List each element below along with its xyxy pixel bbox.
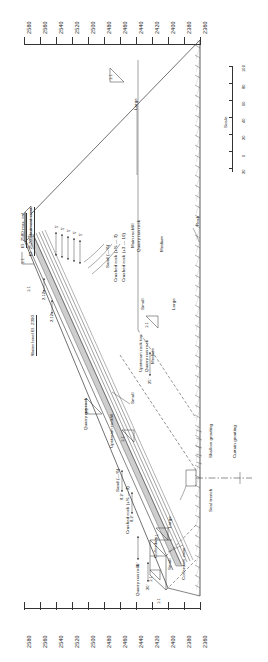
label-upstream-rockfill: Upstream rockfill — [110, 414, 114, 448]
label-max-rwl: El. 2580 max. rwl — [21, 213, 27, 248]
scale-label: Scale — [224, 117, 228, 128]
label-large-coffer: Large — [168, 516, 172, 528]
label-crushed-rock-2: Crushed rock (+3 — 10) — [122, 233, 126, 282]
scale-tick-80: 80 — [242, 84, 246, 89]
scale-tick-60: 60 — [242, 101, 246, 106]
label-large-top: Large — [134, 98, 138, 110]
dim-25: 25' — [148, 378, 152, 384]
dim-5c: 5' — [67, 229, 71, 232]
label-medium-lower: Medium — [151, 348, 155, 364]
scale-tick-0: 0 — [242, 155, 246, 157]
dim-82b: 8.2' — [130, 515, 134, 522]
label-seal-trench: Seal trench — [209, 489, 213, 512]
scale-tick-20: 20 — [242, 135, 246, 140]
dim-5b: 5' — [61, 227, 65, 230]
slope-toe: 1:1 — [121, 436, 125, 442]
dim-30: 30' — [136, 562, 140, 568]
dim-5e: 5' — [79, 233, 83, 236]
dim-212b: 2.12' — [50, 313, 54, 322]
label-crushed-rock-1: Crushed rock (+⅜ — 3) — [114, 234, 118, 282]
slope-mid: 1:1 — [145, 322, 149, 328]
label-rock: Rock — [196, 216, 200, 226]
dim-212a: 2.12' — [42, 291, 46, 300]
dim-5a: 5' — [55, 225, 59, 228]
slope-core: 2:1 — [85, 408, 89, 414]
label-quarry-run-rock-3: Quarry run rock — [84, 398, 88, 430]
label-medium-upper: Medium — [160, 236, 164, 252]
slope-base: 1:1 — [157, 598, 161, 604]
label-curtain-grouting: Curtain grouting — [233, 425, 237, 458]
label-small-lower: Small — [131, 393, 135, 404]
scale-tick-100: 100 — [242, 65, 246, 72]
drawing-canvas: 2580 2560 2540 2520 2500 2480 2460 2440 … — [0, 0, 268, 662]
label-main-rockfill: Main rockfill — [131, 224, 135, 248]
label-small-mid: Small — [141, 299, 145, 310]
scale-tick-40: 40 — [242, 118, 246, 123]
label-large-mid: Large — [172, 298, 176, 310]
slope-coffer-b: 1:1 — [149, 576, 153, 582]
label-small-coffer: Small — [168, 559, 172, 570]
scale-tick-20b: 20 — [242, 169, 246, 174]
dim-20: 20' — [146, 584, 150, 590]
label-quarry-run-rock: Quarry run rock — [137, 220, 141, 252]
dim-82a: 8.2' — [120, 493, 124, 500]
slope-left-upper: 1:1 — [21, 258, 25, 264]
label-sand: Sand (—⅜) — [106, 245, 110, 268]
label-sand-lower: Sand (—⅜) — [116, 469, 120, 492]
label-shallow-grouting: Shallow grouting — [209, 424, 213, 458]
label-water-level: Water level El. 2390 — [31, 315, 37, 356]
slope-coffer-a: 1:1 — [155, 534, 159, 540]
slope-left-lower: 1:1 — [27, 286, 31, 292]
label-crushed-rock-lower: Crushed rock (+⅜ — 3) — [126, 486, 130, 534]
label-quarry-run-rock-2: Quarry run rock — [145, 340, 149, 372]
slope-crest: 1:1 — [109, 74, 113, 80]
label-cofferdam-zone: Cofferdam zone — [182, 547, 186, 580]
dim-5d: 5' — [73, 231, 77, 234]
label-abutment-crest: El. 2570 abutment crest — [29, 207, 35, 256]
label-upstream-rock-toe: Upstream rock toe — [139, 334, 143, 372]
label-quarry-run-rock-4: Quarry run rock — [136, 564, 140, 596]
